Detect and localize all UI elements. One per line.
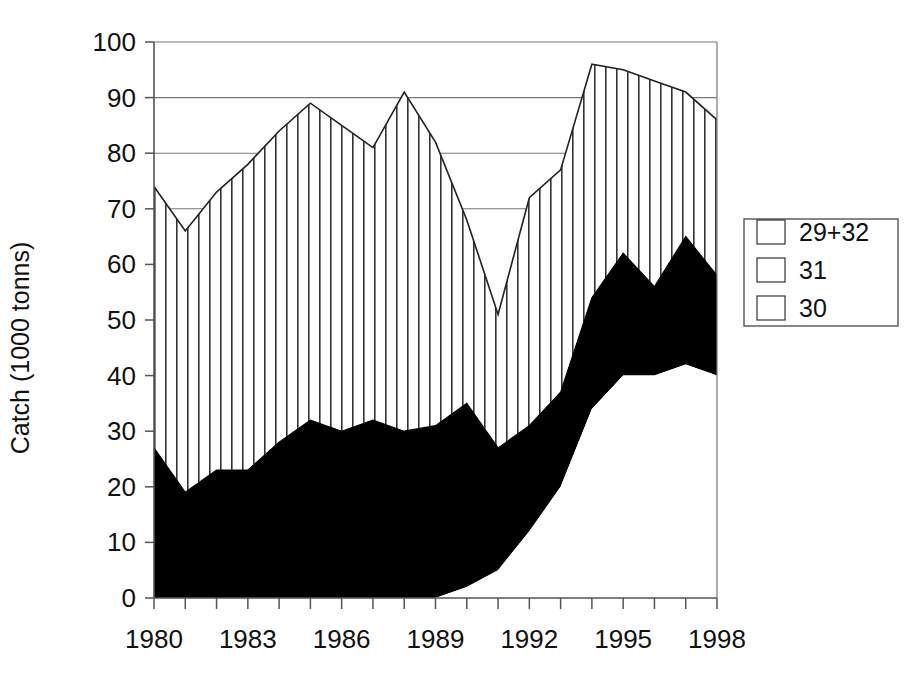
chart-legend: 29+323130 [744,218,898,326]
y-tick-label-30: 30 [107,416,136,446]
x-tick-label-1980: 1980 [125,624,183,654]
legend-swatch-30 [757,296,785,320]
x-tick-label-1983: 1983 [219,624,277,654]
legend-swatch-29-32 [757,220,785,244]
y-axis-title: Catch (1000 tonns) [0,0,40,696]
x-tick-label-1992: 1992 [500,624,558,654]
legend-label-30: 30 [799,294,827,322]
stacked-area-chart: 0102030405060708090100 19801983198619891… [0,0,910,696]
legend-label-31: 31 [799,256,827,284]
x-tick-label-1995: 1995 [594,624,652,654]
y-tick-label-50: 50 [107,305,136,335]
y-tick-label-0: 0 [122,583,136,613]
y-tick-label-100: 100 [93,27,136,57]
y-tick-label-70: 70 [107,194,136,224]
y-tick-label-80: 80 [107,138,136,168]
y-tick-label-90: 90 [107,83,136,113]
legend-swatch-31 [757,258,785,282]
x-tick-label-1989: 1989 [407,624,465,654]
y-tick-label-20: 20 [107,472,136,502]
chart-page: Catch (1000 tonns) 010203040506 [0,0,910,696]
y-tick-label-40: 40 [107,361,136,391]
y-tick-label-60: 60 [107,249,136,279]
y-tick-label-10: 10 [107,527,136,557]
x-tick-label-1998: 1998 [688,624,746,654]
x-tick-label-1986: 1986 [313,624,371,654]
legend-label-29-32: 29+32 [799,218,869,246]
